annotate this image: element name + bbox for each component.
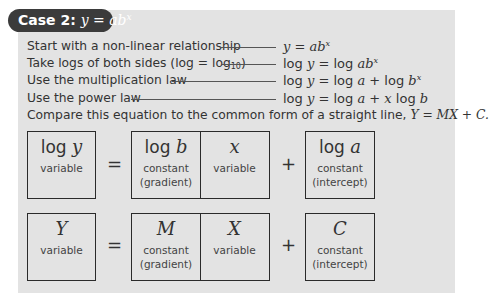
box-x: x variable — [200, 131, 270, 199]
box-log-a: log a constant(intercept) — [305, 131, 375, 199]
step-3-text: Use the multiplication law — [27, 72, 187, 89]
var: a — [350, 136, 361, 157]
step-4-text: Use the power law — [27, 90, 141, 107]
leader-line-2 — [222, 64, 276, 65]
box-label: variable — [201, 161, 269, 175]
plus-sign: + — [281, 234, 296, 255]
eq-exp: x — [417, 73, 422, 82]
step-2-equation: log y = log abx — [283, 55, 378, 72]
compare-text: Compare this equation to the common form… — [27, 107, 489, 124]
case-title-badge: Case 2: y = abx — [8, 9, 113, 32]
box-label: constant — [143, 162, 189, 174]
case-formula: y = abx — [81, 12, 132, 28]
formula-base: y = ab — [81, 12, 127, 28]
plus-sign: + — [281, 153, 296, 174]
box-label: variable — [28, 243, 95, 257]
box-sublabel: (intercept) — [312, 258, 367, 270]
step-2-text: Take logs of both sides (log = log10) — [27, 55, 246, 72]
var: y — [72, 136, 82, 157]
compare-main: Compare this equation to the common form… — [27, 108, 410, 122]
eq-main: y = ab — [283, 39, 326, 54]
fn: log — [319, 137, 345, 157]
box-C: C constant(intercept) — [305, 213, 375, 281]
step-1-equation: y = abx — [283, 38, 330, 55]
box-sublabel: (intercept) — [312, 176, 367, 188]
box-label: constant — [317, 162, 363, 174]
step-2-main: Take logs of both sides (log = log — [27, 56, 231, 70]
leader-line-4 — [131, 99, 276, 100]
box-log-b: log b constant(gradient) — [131, 131, 201, 199]
box-sublabel: (gradient) — [140, 258, 192, 270]
box-Y: Y variable — [27, 213, 96, 281]
var: C — [333, 218, 347, 239]
step-3-equation: log y = log a + log bx — [283, 72, 421, 89]
straight-line-formula: Y = MX + C. — [410, 108, 489, 122]
box-label: variable — [201, 243, 269, 257]
var: x — [229, 136, 239, 157]
eq-exp: x — [326, 39, 331, 48]
var: X — [228, 218, 241, 239]
step-1-text: Start with a non-linear relationship — [27, 38, 241, 55]
box-label: variable — [28, 161, 95, 175]
equals-sign: = — [107, 234, 122, 255]
step-4-equation: log y = log a + x log b — [283, 90, 428, 107]
box-M: M constant(gradient) — [131, 213, 201, 281]
eq-exp: x — [374, 56, 379, 65]
step-2-end: ) — [241, 56, 246, 70]
formula-exponent: x — [127, 12, 132, 22]
var: b — [176, 136, 188, 157]
fn: log — [145, 137, 171, 157]
box-log-y: log y variable — [27, 131, 96, 199]
var: Y — [56, 218, 68, 239]
box-label: constant — [143, 244, 189, 256]
fn: log — [41, 137, 67, 157]
case-label: Case 2: — [18, 12, 76, 28]
equals-sign: = — [107, 153, 122, 174]
box-X: X variable — [200, 213, 270, 281]
leader-line-1 — [220, 47, 276, 48]
leader-line-3 — [172, 81, 276, 82]
box-sublabel: (gradient) — [140, 176, 192, 188]
var: M — [157, 218, 175, 239]
box-label: constant — [317, 244, 363, 256]
